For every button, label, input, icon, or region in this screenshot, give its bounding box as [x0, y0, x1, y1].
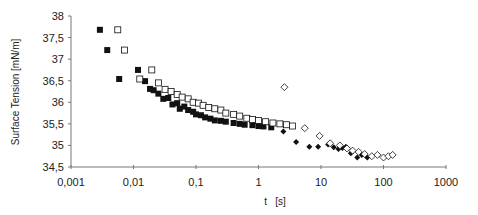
y-tick-label: 37,5	[43, 32, 64, 44]
data-point	[242, 122, 248, 128]
data-point	[249, 117, 255, 123]
data-point	[290, 123, 296, 129]
x-tick-label: 0,001	[57, 176, 85, 188]
data-point	[155, 91, 161, 97]
x-tick-label: 1000	[434, 176, 458, 188]
data-point	[116, 76, 122, 82]
data-points	[97, 27, 396, 161]
data-point	[155, 80, 161, 86]
data-point	[293, 139, 299, 145]
y-axis-title: Surface Tension [mN/m]	[10, 39, 21, 146]
data-point	[231, 120, 237, 126]
y-tick-label: 38	[52, 10, 64, 22]
data-point	[168, 89, 174, 95]
tick-labels: 0,0010,010,1110100100034,53535,53636,537…	[43, 10, 459, 188]
data-point	[223, 110, 229, 116]
data-point	[249, 122, 255, 128]
data-point	[223, 119, 229, 125]
data-point	[244, 115, 250, 121]
data-point	[301, 125, 308, 132]
series-filled-diamonds	[280, 129, 370, 161]
data-point	[270, 120, 276, 126]
data-point	[97, 27, 103, 33]
data-point	[200, 102, 206, 108]
y-tick-label: 37	[52, 53, 64, 65]
data-point	[277, 121, 283, 127]
data-point	[165, 95, 171, 101]
data-point	[104, 47, 110, 53]
data-point	[137, 76, 143, 82]
x-tick-label: 100	[374, 176, 392, 188]
data-point	[256, 117, 262, 123]
x-axis-title: t [s]	[264, 196, 286, 207]
data-point	[212, 106, 218, 112]
data-point	[280, 129, 286, 135]
data-point	[115, 27, 121, 33]
series-filled-squares	[97, 27, 274, 131]
scatter-chart: 0,0010,010,1110100100034,53535,53636,537…	[0, 0, 478, 215]
y-tick-label: 36	[52, 96, 64, 108]
data-point	[315, 144, 321, 150]
data-point	[135, 67, 141, 73]
y-tick-label: 34,5	[43, 161, 64, 173]
data-point	[162, 86, 168, 92]
data-point	[122, 47, 128, 53]
data-point	[149, 67, 155, 73]
y-tick-label: 35	[52, 139, 64, 151]
x-tick-label: 0,01	[123, 176, 144, 188]
data-point	[368, 153, 375, 160]
x-tick-label: 0,1	[188, 176, 203, 188]
axes	[68, 16, 446, 169]
y-tick-label: 36,5	[43, 75, 64, 87]
data-point	[202, 114, 208, 120]
data-point	[206, 104, 212, 110]
data-point	[263, 119, 269, 125]
data-point	[179, 94, 185, 100]
data-point	[212, 117, 218, 123]
data-point	[237, 113, 243, 119]
data-point	[306, 144, 312, 150]
series-open-squares	[115, 27, 296, 129]
y-tick-label: 35,5	[43, 118, 64, 130]
data-point	[281, 84, 288, 91]
x-tick-label: 1	[255, 176, 261, 188]
data-point	[316, 132, 323, 139]
data-point	[283, 122, 289, 128]
data-point	[174, 100, 180, 106]
x-tick-label: 10	[315, 176, 327, 188]
data-point	[231, 111, 237, 117]
